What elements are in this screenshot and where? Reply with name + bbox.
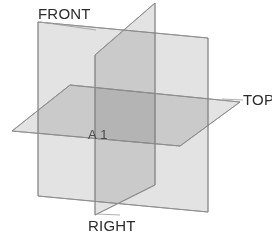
diagram-canvas: FRONT TOP RIGHT A 1 bbox=[0, 0, 272, 236]
label-right: RIGHT bbox=[88, 217, 136, 234]
label-front: FRONT bbox=[38, 5, 91, 22]
label-top: TOP bbox=[243, 91, 272, 108]
label-center-a1: A 1 bbox=[88, 127, 108, 142]
projection-planes-diagram: FRONT TOP RIGHT A 1 bbox=[0, 0, 272, 236]
